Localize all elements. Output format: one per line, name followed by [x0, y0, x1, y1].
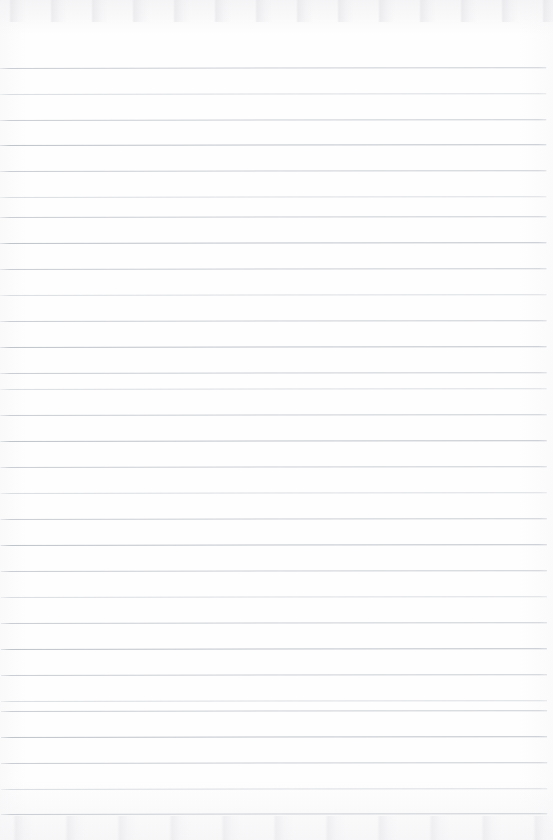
paper-surface — [0, 0, 553, 840]
rule-line — [1, 710, 547, 712]
rule-line — [1, 788, 547, 790]
rule-line — [0, 196, 546, 198]
rule-line — [0, 144, 546, 146]
rule-line — [1, 518, 547, 520]
rule-line — [1, 414, 547, 416]
rule-line — [1, 813, 547, 815]
rule-line — [0, 67, 546, 69]
rule-line — [1, 596, 547, 598]
rule-line — [0, 216, 546, 218]
rule-line — [0, 242, 546, 244]
rule-line — [0, 93, 546, 95]
rule-line — [0, 170, 546, 172]
rule-line — [0, 320, 546, 322]
scanned-page — [0, 0, 553, 840]
rule-line — [1, 648, 547, 650]
scan-noise-band-bottom — [0, 816, 553, 840]
ruled-lines-layer — [0, 0, 553, 840]
rule-line — [1, 700, 547, 702]
rule-line — [0, 268, 546, 270]
rule-line — [1, 346, 547, 348]
rule-line — [1, 570, 547, 572]
rule-line — [1, 544, 547, 546]
scan-noise-band-top — [0, 0, 553, 22]
rule-line — [1, 372, 547, 374]
rule-line — [1, 492, 547, 494]
rule-line — [1, 622, 547, 624]
rule-line — [1, 762, 547, 764]
rule-line — [1, 674, 547, 676]
rule-line — [0, 294, 546, 296]
rule-line — [0, 119, 546, 121]
rule-line — [1, 736, 547, 738]
rule-line — [1, 440, 547, 442]
rule-line — [1, 388, 547, 390]
rule-line — [1, 466, 547, 468]
